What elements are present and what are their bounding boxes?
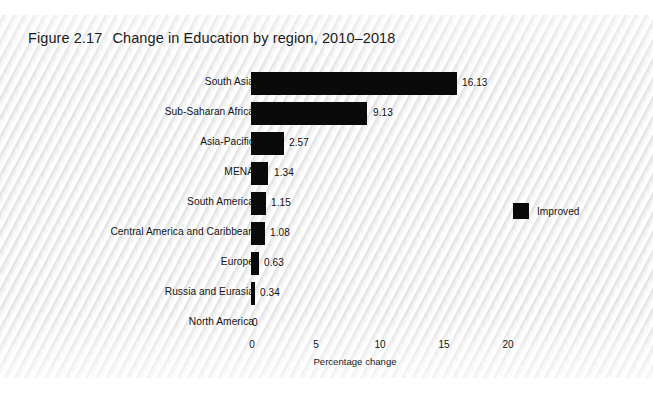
bar-value-label: 16.13 xyxy=(462,77,488,89)
x-tick-label: 0 xyxy=(249,339,255,351)
bar-value-label: 2.57 xyxy=(289,137,309,149)
x-tick-label: 5 xyxy=(313,339,319,351)
category-label: Sub-Saharan Africa xyxy=(165,106,254,118)
bar-value-label: 0.34 xyxy=(260,287,280,299)
bar-value-label: 0.63 xyxy=(264,257,284,269)
category-label: South America xyxy=(187,196,254,208)
x-tick-label: 10 xyxy=(374,339,385,351)
legend-label-improved: Improved xyxy=(537,206,579,217)
legend-swatch-improved xyxy=(513,203,529,219)
bar-value-label: 0 xyxy=(252,317,258,329)
bar-value-label: 1.34 xyxy=(274,167,294,179)
category-label: South Asia xyxy=(205,76,254,88)
category-label: MENA xyxy=(224,166,254,178)
category-label: Russia and Eurasia xyxy=(165,286,254,298)
bar[interactable] xyxy=(251,162,268,185)
bar[interactable] xyxy=(251,192,266,215)
bar-value-label: 9.13 xyxy=(373,107,393,119)
bar[interactable] xyxy=(251,102,367,125)
bar[interactable] xyxy=(251,222,265,245)
x-axis-title: Percentage change xyxy=(313,356,396,367)
bar[interactable] xyxy=(251,252,259,275)
bar-value-label: 1.08 xyxy=(270,227,290,239)
x-tick-label: 15 xyxy=(438,339,449,351)
category-label: Europe xyxy=(221,256,254,268)
bar[interactable] xyxy=(251,132,284,155)
bar[interactable] xyxy=(251,72,457,95)
bar[interactable] xyxy=(251,282,255,305)
category-label: Asia-Pacific xyxy=(200,136,254,148)
category-label: North America xyxy=(189,316,254,328)
bar-chart: South Asia Sub-Saharan Africa Asia-Pacif… xyxy=(0,0,653,399)
chart-legend: Improved xyxy=(513,203,579,219)
bar-value-label: 1.15 xyxy=(271,197,291,209)
x-tick-label: 20 xyxy=(502,339,513,351)
category-label: Central America and Caribbean xyxy=(110,226,254,238)
